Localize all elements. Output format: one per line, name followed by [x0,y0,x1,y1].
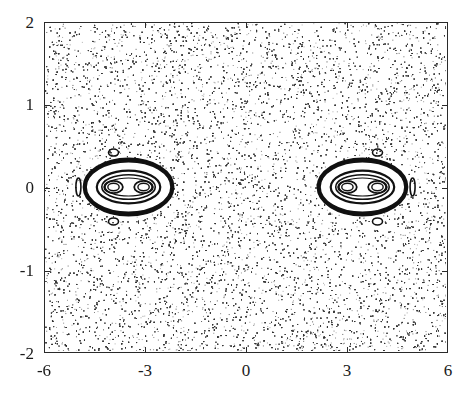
xtick-mark [145,347,146,353]
ytick-label-2: 2 [4,14,34,31]
xtick-label-3: 3 [332,362,362,379]
ytick-mark [442,105,448,106]
xtick-mark [246,22,247,28]
poincare-scatter [45,23,446,351]
ytick-mark [44,105,50,106]
xtick-mark [347,347,348,353]
xtick-mark [145,22,146,28]
xtick-label-m6: -6 [29,362,59,379]
ytick-mark [442,188,448,189]
ytick-mark [44,188,50,189]
xtick-label-0: 0 [231,362,261,379]
ytick-mark [44,271,50,272]
ytick-mark [442,271,448,272]
plot-area [44,22,448,353]
ytick-label-m1: -1 [4,262,34,279]
ytick-label-m2: -2 [4,345,34,362]
ytick-label-0: 0 [4,179,34,196]
xtick-mark [347,22,348,28]
ytick-label-1: 1 [4,96,34,113]
xtick-label-m3: -3 [130,362,160,379]
xtick-label-6: 6 [433,362,463,379]
xtick-mark [246,347,247,353]
